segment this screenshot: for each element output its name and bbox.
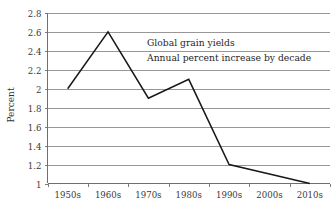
y-tick-label: 2.8 (28, 9, 42, 19)
x-tick-label: 1980s (176, 190, 202, 200)
y-tick-label: 1.6 (28, 123, 42, 133)
chart-background (0, 0, 334, 213)
annotation-primary: Global grain yields (147, 37, 235, 48)
x-tick-label: 1990s (216, 190, 242, 200)
y-tick-label: 1.2 (28, 161, 42, 171)
x-tick-label: 1960s (95, 190, 121, 200)
y-tick-label: 1 (36, 180, 41, 190)
line-chart-plot: 2.82.62.42.221.81.61.41.21 1950s1960s197… (0, 0, 334, 213)
x-tick-label: 2000s (256, 190, 282, 200)
y-tick-label: 2.4 (28, 47, 42, 57)
x-tick-label: 1950s (55, 190, 81, 200)
chart-container: 2.82.62.42.221.81.61.41.21 1950s1960s197… (0, 0, 334, 213)
y-tick-label: 2 (36, 85, 41, 95)
y-tick-label: 2.6 (28, 28, 42, 38)
y-tick-label: 1.4 (28, 142, 42, 152)
annotation-secondary: Annual percent increase by decade (146, 52, 311, 63)
y-tick-label: 1.8 (28, 104, 42, 114)
y-tick-label: 2.2 (28, 66, 42, 76)
x-tick-label: 2010s (297, 190, 323, 200)
x-tick-label: 1970s (135, 190, 161, 200)
y-axis-title: Percent (6, 87, 16, 122)
